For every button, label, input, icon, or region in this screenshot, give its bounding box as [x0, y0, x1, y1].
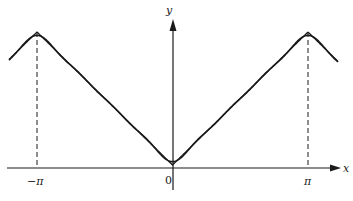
x-axis-label: x: [343, 162, 350, 175]
tick-label-minus-pi: −π: [27, 175, 44, 188]
x-axis-arrow-icon: [330, 165, 341, 172]
y-axis-label: y: [165, 4, 173, 17]
y-axis-arrow-icon: [170, 19, 177, 31]
fourier-diagram: y x 0 −π π: [0, 0, 353, 201]
origin-label: 0: [165, 174, 172, 187]
tick-label-pi: π: [303, 175, 312, 188]
x-axis: [7, 165, 341, 172]
